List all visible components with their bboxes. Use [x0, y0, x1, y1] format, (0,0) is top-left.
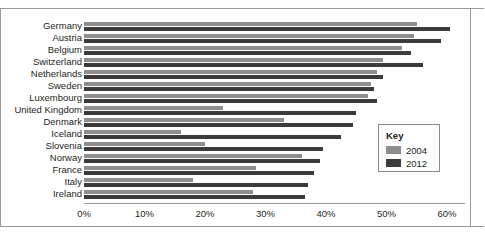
bar-2004 [84, 82, 371, 86]
bar-2004 [84, 58, 383, 62]
bar-2012 [84, 75, 383, 79]
bar-2012 [84, 87, 374, 91]
category-label: Ireland [0, 189, 82, 199]
bar-2004 [84, 118, 284, 122]
x-tick-label: 10% [125, 208, 165, 219]
bar-2012 [84, 39, 441, 43]
x-axis-line [84, 203, 465, 204]
category-label: Norway [0, 153, 82, 163]
bar-2004 [84, 46, 402, 50]
category-label: Switzerland [0, 57, 82, 67]
legend-label: 2012 [406, 158, 427, 169]
bar-2012 [84, 99, 377, 103]
category-label: France [0, 165, 82, 175]
category-label: Germany [0, 21, 82, 31]
x-tick-label: 0% [64, 208, 104, 219]
bar-2004 [84, 178, 193, 182]
x-tick-label: 30% [246, 208, 286, 219]
bar-2004 [84, 94, 368, 98]
legend-label: 2004 [406, 145, 427, 156]
legend-swatch-icon [386, 159, 401, 167]
bar-2004 [84, 70, 377, 74]
category-label: United Kingdom [0, 105, 82, 115]
category-label: Luxembourg [0, 93, 82, 103]
bar-2012 [84, 183, 308, 187]
bar-2004 [84, 130, 181, 134]
x-tick-label: 20% [185, 208, 225, 219]
bar-2004 [84, 22, 417, 26]
bar-2004 [84, 142, 205, 146]
bar-2012 [84, 27, 450, 31]
bar-2004 [84, 166, 256, 170]
legend-title: Key [386, 130, 403, 141]
bar-2012 [84, 111, 356, 115]
chart-legend: Key 20042012 [378, 124, 440, 172]
bar-2012 [84, 63, 423, 67]
legend-swatch-icon [386, 146, 401, 154]
category-label: Italy [0, 177, 82, 187]
bar-2012 [84, 51, 411, 55]
category-label: Belgium [0, 45, 82, 55]
category-label: Slovenia [0, 141, 82, 151]
bar-2012 [84, 195, 305, 199]
bar-2012 [84, 147, 323, 151]
category-label: Austria [0, 33, 82, 43]
category-label: Denmark [0, 117, 82, 127]
bar-2012 [84, 171, 314, 175]
category-label: Iceland [0, 129, 82, 139]
bar-2012 [84, 159, 320, 163]
bar-2012 [84, 123, 353, 127]
x-tick-label: 50% [367, 208, 407, 219]
x-tick-label: 60% [427, 208, 467, 219]
category-label: Sweden [0, 81, 82, 91]
x-tick-label: 40% [306, 208, 346, 219]
category-label: Netherlands [0, 69, 82, 79]
bar-2004 [84, 190, 253, 194]
bar-chart-plot-area: GermanyAustriaBelgiumSwitzerlandNetherla… [0, 0, 485, 236]
bar-2004 [84, 34, 414, 38]
bar-2004 [84, 106, 223, 110]
bar-2012 [84, 135, 341, 139]
bar-2004 [84, 154, 302, 158]
